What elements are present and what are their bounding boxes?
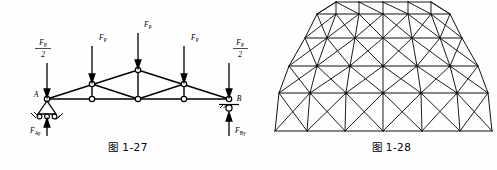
dome-bracing-band3 — [289, 38, 478, 66]
label-support-a: A — [33, 90, 39, 99]
arrow-head-load-apex — [135, 60, 141, 69]
dome-brace-b3-a1 — [289, 38, 327, 66]
pin-support-triangle — [38, 101, 56, 114]
dome-cap-fall-2 — [359, 2, 383, 14]
label-support-b: B — [237, 94, 242, 103]
dome-lattice — [275, 2, 492, 131]
arrow-head-load-panel-1 — [89, 74, 95, 83]
dome-cap-fall-4 — [408, 2, 431, 14]
dome-post-b4-4 — [408, 14, 412, 38]
label-load-panel-2-subscript: P — [196, 37, 199, 43]
label-load-right-half-denominator: 2 — [238, 50, 242, 59]
label-reaction-a: FAy — [29, 126, 41, 136]
dome-diagram — [270, 0, 497, 140]
figure-page: A B — [0, 0, 497, 170]
arrow-head-load-left-half — [44, 89, 50, 98]
joint-bottom-right — [181, 96, 186, 101]
dome-cap-fall-3 — [383, 2, 408, 14]
dome-bracing-band2 — [279, 66, 488, 93]
joint-bottom-center — [135, 96, 140, 101]
dome-brace-b3-b6 — [440, 38, 478, 66]
dome-post-b4-2 — [355, 14, 359, 38]
dome-brace-b3-b2 — [327, 38, 350, 66]
dome-post-b2-2 — [346, 66, 350, 93]
dome-cap-edge-left — [317, 2, 336, 14]
dome-joint-r3-1 — [316, 65, 319, 68]
dome-joint-r2-5 — [456, 92, 459, 95]
arrow-head-reaction-b — [226, 113, 232, 122]
arrow-head-load-right-half — [226, 89, 232, 98]
svg-text:FP: FP — [38, 38, 47, 48]
figure-truss: A B — [0, 0, 270, 170]
dome-cap-edge-right — [431, 2, 450, 14]
reaction-arrows — [44, 113, 232, 137]
dome-brace-base-b1 — [279, 93, 307, 131]
dome-brace-base-b6 — [457, 93, 492, 131]
dome-brace-b4-a6 — [440, 14, 450, 38]
dome-post-base-5 — [457, 93, 460, 131]
label-reaction-b-subscript: By — [240, 130, 246, 136]
dome-crown-cap — [317, 2, 450, 14]
svg-text:FP: FP — [235, 38, 244, 48]
dome-brace-b4-b1 — [317, 14, 327, 38]
label-load-left-half-subscript: P — [44, 42, 47, 48]
dome-post-base-4 — [421, 93, 422, 131]
label-load-panel-2: FP — [190, 33, 199, 43]
dome-brace-b4-a5 — [412, 14, 431, 38]
dome-brace-b2-a6 — [457, 66, 478, 93]
label-load-right-half: FP 2 — [233, 38, 248, 59]
dome-joint-r3-3 — [382, 65, 385, 68]
dome-joint-r2-1 — [309, 92, 312, 95]
dome-cap-fall-1 — [336, 2, 359, 14]
label-load-right-half-subscript: P — [241, 42, 244, 48]
dome-brace-b3-b4 — [383, 38, 417, 66]
dome-joint-r3-2 — [349, 65, 352, 68]
arrow-head-reaction-a — [44, 119, 50, 128]
dome-brace-b3-b5 — [412, 38, 450, 66]
dome-brace-b4-b2 — [336, 14, 355, 38]
label-reaction-b: FBy — [234, 126, 246, 136]
dome-brace-b2-b2 — [317, 66, 346, 93]
dome-brace-b3-a4 — [383, 38, 412, 66]
dome-post-base-2 — [345, 93, 346, 131]
dome-brace-b3-a6 — [450, 38, 462, 66]
caption-figure-1-28: 图 1-28 — [278, 139, 497, 154]
pin-support-roller-right — [52, 114, 57, 119]
dome-brace-b3-a2 — [317, 38, 355, 66]
joint-bottom-left — [89, 96, 94, 101]
dome-brace-b2-a5 — [421, 66, 450, 93]
member-diagonal-right-lower — [138, 84, 184, 99]
caption-figure-1-27: 图 1-27 — [0, 139, 263, 154]
label-load-panel-1-subscript: P — [104, 37, 107, 43]
member-diagonal-left-lower — [92, 84, 138, 99]
label-load-panel-1: FP — [98, 33, 107, 43]
label-reaction-a-subscript: Ay — [35, 130, 41, 136]
dome-brace-b3-a5 — [417, 38, 440, 66]
dome-joint-r2-3 — [382, 92, 385, 95]
dome-joint-r2-2 — [345, 92, 348, 95]
label-load-apex-subscript: P — [149, 24, 152, 30]
dome-brace-b3-b3 — [355, 38, 383, 66]
dome-post-base-1 — [307, 93, 310, 131]
dome-profile-left — [275, 14, 317, 131]
dome-profile-right — [450, 14, 492, 131]
dome-post-b3-4 — [412, 38, 417, 66]
dome-joint-r2-4 — [420, 92, 423, 95]
roller-support-wheel — [226, 105, 232, 111]
dome-brace-b3-b1 — [305, 38, 317, 66]
dome-post-b2-4 — [417, 66, 421, 93]
dome-brace-b2-b1 — [289, 66, 310, 93]
roller-support-b — [219, 105, 239, 112]
label-load-left-half: FP 2 — [35, 38, 51, 59]
label-load-apex: FP — [143, 20, 152, 30]
truss-web-members — [92, 70, 184, 99]
label-load-left-half-denominator: 2 — [41, 50, 45, 59]
dome-joint-r3-5 — [449, 65, 452, 68]
truss-diagram: A B — [0, 0, 270, 140]
dome-meridian-posts — [307, 14, 460, 131]
arrow-head-load-panel-2 — [181, 74, 187, 83]
figure-dome: 图 1-28 — [270, 0, 497, 170]
dome-brace-b3-a3 — [350, 38, 383, 66]
dome-joint-r3-4 — [416, 65, 419, 68]
